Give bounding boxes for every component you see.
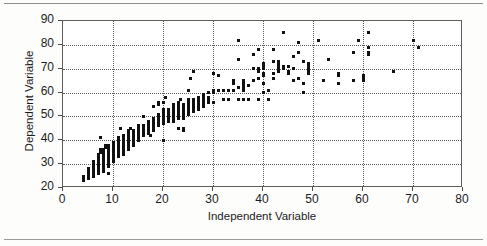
data-point	[282, 31, 285, 34]
data-point	[232, 89, 235, 92]
data-point	[307, 62, 310, 65]
data-point	[107, 144, 110, 147]
data-point	[162, 101, 165, 104]
x-tick-label: 50	[297, 192, 327, 206]
data-point	[327, 58, 330, 61]
y-tick-mark	[58, 44, 62, 45]
x-tick-label: 40	[247, 192, 277, 206]
data-point	[357, 39, 360, 42]
data-point	[277, 60, 280, 63]
data-point	[242, 98, 245, 101]
data-point	[257, 48, 260, 51]
data-point	[217, 74, 220, 77]
data-point	[87, 167, 90, 170]
data-point	[132, 129, 135, 132]
data-point	[317, 39, 320, 42]
data-point	[237, 58, 240, 61]
data-point	[182, 103, 185, 106]
data-point	[222, 89, 225, 92]
y-tick-mark	[58, 92, 62, 93]
data-point	[287, 65, 290, 68]
data-point	[267, 89, 270, 92]
data-point	[172, 103, 175, 106]
data-point	[227, 89, 230, 92]
data-point	[417, 46, 420, 49]
data-point	[122, 134, 125, 137]
data-point	[247, 98, 250, 101]
data-point	[257, 77, 260, 80]
x-tick-label: 0	[47, 192, 77, 206]
x-tick-label: 20	[147, 192, 177, 206]
gridline-vertical	[263, 21, 264, 186]
plot-frame	[62, 20, 462, 187]
data-point	[302, 91, 305, 94]
y-axis-title: Dependent Variable	[23, 26, 35, 176]
data-point	[157, 113, 160, 116]
data-point	[142, 124, 145, 127]
data-point	[367, 46, 370, 49]
data-point	[257, 67, 260, 70]
data-point	[212, 72, 215, 75]
data-point	[337, 72, 340, 75]
x-tick-label: 70	[397, 192, 427, 206]
data-point	[302, 60, 305, 63]
data-point	[149, 134, 152, 137]
data-point	[282, 65, 285, 68]
gridline-horizontal	[63, 116, 461, 117]
data-point	[187, 89, 190, 92]
data-point	[192, 70, 195, 73]
data-point	[237, 98, 240, 101]
y-tick-mark	[58, 163, 62, 164]
data-point	[297, 41, 300, 44]
x-tick-label: 80	[447, 192, 477, 206]
data-point	[167, 108, 170, 111]
data-point	[237, 86, 240, 89]
x-tick-label: 30	[197, 192, 227, 206]
x-tick-mark	[262, 187, 263, 191]
gridline-horizontal	[63, 164, 461, 165]
data-point	[352, 51, 355, 54]
data-point	[152, 105, 155, 108]
data-point	[202, 93, 205, 96]
data-point	[162, 139, 165, 142]
data-point	[207, 91, 210, 94]
data-point	[137, 124, 140, 127]
data-point	[162, 108, 165, 111]
y-tick-label: 90	[28, 12, 54, 26]
x-axis-title: Independent Variable	[62, 210, 462, 222]
data-point	[267, 98, 270, 101]
data-point	[412, 39, 415, 42]
data-point	[287, 70, 290, 73]
data-point	[207, 96, 210, 99]
gridline-vertical	[413, 21, 414, 186]
data-point	[292, 79, 295, 82]
y-tick-mark	[58, 187, 62, 188]
x-tick-mark	[162, 187, 163, 191]
data-point	[362, 74, 365, 77]
data-point	[157, 101, 160, 104]
data-point	[297, 51, 300, 54]
data-point	[222, 98, 225, 101]
data-point	[322, 79, 325, 82]
data-point	[367, 31, 370, 34]
data-point	[227, 98, 230, 101]
data-point	[147, 120, 150, 123]
x-tick-mark	[362, 187, 363, 191]
data-point	[92, 160, 95, 163]
data-point	[262, 62, 265, 65]
y-tick-mark	[58, 115, 62, 116]
data-point	[107, 172, 110, 175]
x-tick-label: 60	[347, 192, 377, 206]
data-point	[212, 101, 215, 104]
data-point	[302, 82, 305, 85]
data-point	[187, 98, 190, 101]
data-point	[142, 115, 145, 118]
y-tick-mark	[58, 68, 62, 69]
gridline-vertical	[363, 21, 364, 186]
x-tick-mark	[112, 187, 113, 191]
data-point	[247, 84, 250, 87]
data-point	[237, 39, 240, 42]
data-point	[152, 117, 155, 120]
data-point	[82, 175, 85, 178]
y-tick-mark	[58, 20, 62, 21]
